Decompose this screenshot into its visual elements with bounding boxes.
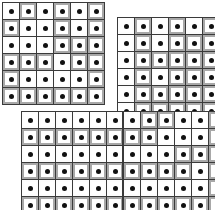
lattice-dot-icon: [158, 24, 163, 29]
lattice-dot-icon: [79, 169, 84, 174]
lattice-cell: [37, 54, 53, 70]
lattice-cell: [73, 112, 89, 128]
lattice-dot-icon: [43, 43, 48, 48]
lattice-cell: [192, 112, 208, 128]
lattice-dot-icon: [45, 152, 50, 157]
lattice-cell: [124, 163, 140, 179]
lattice-dot-icon: [124, 58, 129, 63]
lattice-cell: [3, 3, 19, 19]
lattice-dot-icon: [43, 60, 48, 65]
lattice-dot-icon: [124, 92, 129, 97]
lattice-dot-icon: [164, 203, 169, 208]
lattice-cell: [20, 54, 36, 70]
lattice-cell: [90, 112, 106, 128]
lattice-cell: [22, 146, 38, 162]
lattice-cell: [209, 129, 215, 145]
lattice-dot-icon: [60, 43, 65, 48]
lattice-dot-icon: [79, 203, 84, 208]
lattice-cell: [209, 180, 215, 196]
lattice-dot-icon: [113, 169, 118, 174]
top-left-grid: [2, 2, 105, 105]
lattice-cell: [20, 37, 36, 53]
lattice-dot-icon: [164, 152, 169, 157]
lattice-dot-icon: [181, 169, 186, 174]
lattice-dot-icon: [130, 135, 135, 140]
lattice-dot-icon: [181, 135, 186, 140]
lattice-cell: [90, 129, 106, 145]
lattice-dot-icon: [94, 43, 99, 48]
lattice-cell: [54, 71, 70, 87]
lattice-dot-icon: [45, 135, 50, 140]
lattice-cell: [152, 52, 168, 68]
lattice-cell: [118, 86, 134, 102]
lattice-dot-icon: [77, 43, 82, 48]
lattice-cell: [203, 86, 215, 102]
lattice-cell: [22, 197, 38, 210]
lattice-dot-icon: [45, 169, 50, 174]
lattice-cell: [107, 112, 123, 128]
lattice-cell: [71, 71, 87, 87]
lattice-dot-icon: [209, 24, 214, 29]
lattice-cell: [158, 146, 174, 162]
lattice-dot-icon: [198, 169, 203, 174]
lattice-cell: [203, 69, 215, 85]
lattice-cell: [56, 146, 72, 162]
lattice-cell: [186, 35, 202, 51]
lattice-dot-icon: [62, 186, 67, 191]
lattice-dot-icon: [175, 92, 180, 97]
lattice-cell: [22, 129, 38, 145]
lattice-cell: [107, 163, 123, 179]
lattice-cell: [203, 35, 215, 51]
lattice-cell: [73, 146, 89, 162]
lattice-cell: [39, 112, 55, 128]
lattice-dot-icon: [198, 186, 203, 191]
lattice-dot-icon: [28, 152, 33, 157]
lattice-dot-icon: [77, 26, 82, 31]
lattice-cell: [88, 88, 104, 104]
lattice-dot-icon: [45, 186, 50, 191]
lattice-cell: [158, 163, 174, 179]
lattice-cell: [175, 112, 191, 128]
lattice-dot-icon: [192, 24, 197, 29]
lattice-dot-icon: [96, 135, 101, 140]
lattice-dot-icon: [147, 152, 152, 157]
lattice-dot-icon: [130, 169, 135, 174]
lattice-dot-icon: [28, 169, 33, 174]
lattice-cell: [118, 69, 134, 85]
lattice-dot-icon: [96, 152, 101, 157]
lattice-dot-icon: [94, 9, 99, 14]
lattice-dot-icon: [124, 24, 129, 29]
lattice-dot-icon: [147, 169, 152, 174]
lattice-dot-icon: [62, 203, 67, 208]
lattice-dot-icon: [198, 203, 203, 208]
lattice-cell: [22, 180, 38, 196]
lattice-cell: [88, 71, 104, 87]
lattice-cell: [3, 20, 19, 36]
lattice-dot-icon: [94, 60, 99, 65]
lattice-dot-icon: [209, 92, 214, 97]
lattice-cell: [141, 146, 157, 162]
lattice-dot-icon: [45, 118, 50, 123]
lattice-cell: [141, 180, 157, 196]
lattice-dot-icon: [209, 58, 214, 63]
lattice-cell: [124, 146, 140, 162]
lattice-cell: [3, 37, 19, 53]
lattice-cell: [175, 163, 191, 179]
lattice-cell: [37, 20, 53, 36]
lattice-cell: [73, 129, 89, 145]
lattice-dot-icon: [141, 92, 146, 97]
lattice-dot-icon: [96, 118, 101, 123]
lattice-cell: [73, 163, 89, 179]
lattice-cell: [175, 129, 191, 145]
lattice-cell: [39, 197, 55, 210]
lattice-dot-icon: [198, 152, 203, 157]
lattice-dot-icon: [124, 75, 129, 80]
lattice-cell: [124, 112, 140, 128]
lattice-cell: [118, 35, 134, 51]
lattice-dot-icon: [45, 203, 50, 208]
lattice-cell: [175, 180, 191, 196]
lattice-cell: [56, 180, 72, 196]
lattice-dot-icon: [9, 60, 14, 65]
lattice-dot-icon: [26, 77, 31, 82]
lattice-cell: [39, 163, 55, 179]
